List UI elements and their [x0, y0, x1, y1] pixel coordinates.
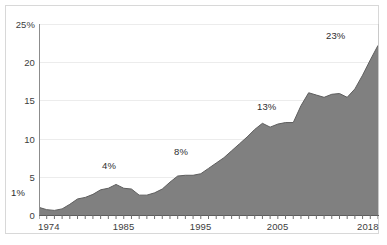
- x-axis-labels: 19741985199520052018: [39, 221, 378, 235]
- x-tick-label-1974: 1974: [38, 221, 60, 232]
- annotation-8-percent: 8%: [174, 146, 188, 157]
- plot-right-border: [378, 24, 379, 215]
- area-fill: [39, 45, 378, 215]
- y-tick-label-5: 5: [30, 171, 35, 182]
- x-tick-label-1995: 1995: [190, 221, 212, 232]
- y-tick-label-10: 10: [24, 133, 35, 144]
- annotation-13-percent: 13%: [257, 101, 276, 112]
- annotation-1-percent: 1%: [11, 187, 25, 198]
- area-series: [39, 24, 378, 215]
- y-axis-line: [39, 24, 40, 215]
- x-tick-label-2005: 2005: [267, 221, 289, 232]
- y-tick-label-25: 25%: [16, 19, 35, 30]
- y-tick-label-15: 15: [24, 95, 35, 106]
- plot-area: [39, 24, 378, 215]
- chart-frame: 25%20151050 19741985199520052018 1%4%8%1…: [5, 5, 379, 234]
- y-tick-label-0: 0: [30, 210, 35, 221]
- x-tick-label-1985: 1985: [113, 221, 135, 232]
- y-tick-label-20: 20: [24, 57, 35, 68]
- x-tick-label-2018: 2018: [357, 221, 379, 232]
- annotation-23-percent: 23%: [326, 30, 345, 41]
- annotation-4-percent: 4%: [102, 160, 116, 171]
